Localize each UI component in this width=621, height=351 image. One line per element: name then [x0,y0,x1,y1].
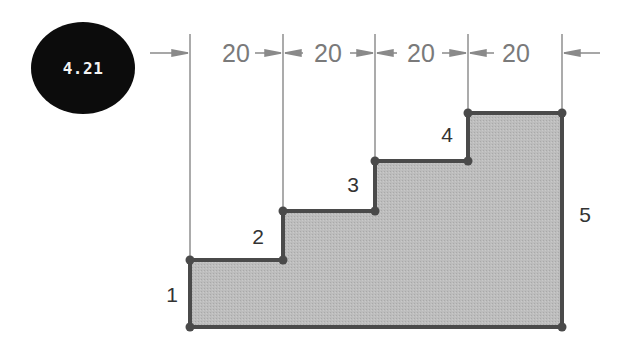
segment-label-5: 5 [579,203,591,226]
arrow-icon [285,50,301,56]
dimension-value-1: 20 [222,39,250,67]
dimension-value-4: 20 [502,39,530,67]
segment-label-3: 3 [347,173,359,196]
dimension-value-3: 20 [407,39,435,67]
arrow-icon [470,50,486,56]
arrow-icon [450,50,466,56]
arrow-icon [377,50,393,56]
segment-label-4: 4 [441,123,453,146]
arrow-icon [172,50,188,56]
stepped-shape [190,113,562,327]
segment-label-1: 1 [166,283,178,306]
arrow-icon [564,50,580,56]
arrow-icon [265,50,281,56]
segment-label-2: 2 [252,225,264,248]
arrow-icon [357,50,373,56]
stepped-profile-diagram: 20 20 20 20 1 2 3 4 5 [0,0,621,351]
dimension-value-2: 20 [314,39,342,67]
